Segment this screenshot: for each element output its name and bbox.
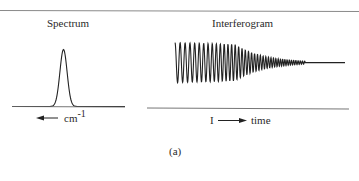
interferogram-baseline: [147, 108, 349, 109]
spectrum-peak-curve: [12, 50, 125, 107]
figure-caption: (a): [169, 145, 182, 158]
figure-canvas: Spectrum cm-1 Interferogram I time (a): [0, 0, 359, 181]
spectrum-baseline: [12, 107, 125, 108]
spectrum-axis-label: cm-1: [64, 108, 86, 124]
left-arrow-icon: [36, 116, 58, 121]
top-rule: [0, 11, 359, 12]
spectrum-title: Spectrum: [47, 17, 90, 29]
spectrum-panel: Spectrum cm-1: [12, 17, 125, 124]
interferogram-title: Interferogram: [212, 17, 274, 29]
spectrum-axis-exponent: -1: [77, 108, 85, 119]
right-arrow-icon: [218, 118, 247, 123]
interferogram-wave-curve: [175, 43, 345, 83]
interferogram-axis-label: time: [251, 114, 271, 126]
spectrum-axis-unit: cm: [64, 112, 78, 124]
interferogram-panel: Interferogram I time: [147, 17, 349, 126]
interferogram-axis-prefix: I: [210, 114, 214, 126]
